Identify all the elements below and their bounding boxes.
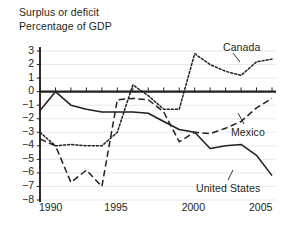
chart-figure: Surplus or deficit Percentage of GDP Can…: [0, 0, 291, 227]
y-tick-label: −6: [16, 165, 34, 177]
y-tick-label: −1: [16, 98, 34, 110]
y-tick-label: −4: [16, 138, 34, 150]
series-label-canada: Canada: [223, 41, 260, 53]
y-tick-label: 2: [16, 57, 34, 69]
leader-line-united-states: [228, 170, 233, 180]
x-tick-label: 2000: [182, 201, 205, 213]
x-tick-label: 2005: [249, 201, 272, 213]
series-lines: [40, 54, 272, 187]
y-tick-label: −3: [16, 125, 34, 137]
leader-line-canada: [233, 53, 240, 62]
y-tick-label: 1: [16, 71, 34, 83]
x-tick-label: 1990: [39, 201, 62, 213]
x-tick-label: 1995: [104, 201, 127, 213]
series-label-united-states: United States: [196, 182, 260, 194]
y-tick-label: 0: [16, 84, 34, 96]
y-tick-label: 3: [16, 44, 34, 56]
y-tick-label: −5: [16, 152, 34, 164]
y-tick-label: −8: [16, 193, 34, 205]
y-tick-label: −7: [16, 179, 34, 191]
series-label-mexico: Mexico: [231, 126, 265, 138]
y-tick-label: −2: [16, 111, 34, 123]
